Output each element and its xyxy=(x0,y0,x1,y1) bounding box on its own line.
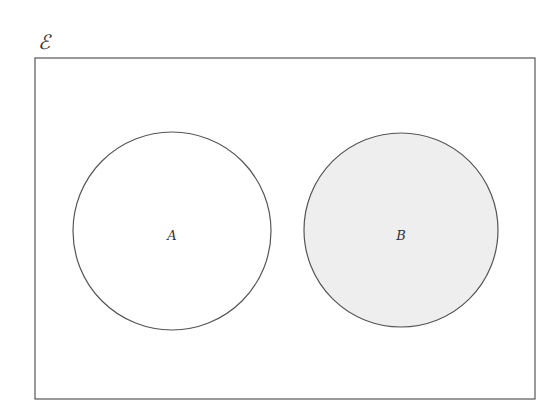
set-b-label: B xyxy=(395,228,406,243)
set-a-label: A xyxy=(166,228,176,243)
universal-set-label: ℰ xyxy=(38,30,52,54)
venn-diagram: ℰ A B xyxy=(0,0,559,420)
